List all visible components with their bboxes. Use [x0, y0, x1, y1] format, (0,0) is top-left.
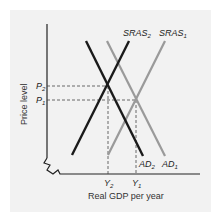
y-axis-title: Price level [19, 83, 29, 125]
x-axis-title: Real GDP per year [88, 191, 164, 201]
ad-as-diagram: SRAS2 SRAS1 AD2 AD1 P2 P1 Y2 Y1 Real GDP… [0, 0, 221, 220]
p2-label: P2 [36, 81, 46, 92]
y2-label: Y2 [104, 178, 114, 189]
sras1-label: SRAS1 [159, 28, 187, 39]
ad1-label: AD1 [161, 159, 178, 170]
y1-label: Y1 [132, 178, 141, 189]
sras2-curve [72, 41, 129, 155]
sras2-label: SRAS2 [123, 28, 152, 39]
p1-label: P1 [36, 95, 45, 106]
ad2-label: AD2 [138, 159, 156, 170]
